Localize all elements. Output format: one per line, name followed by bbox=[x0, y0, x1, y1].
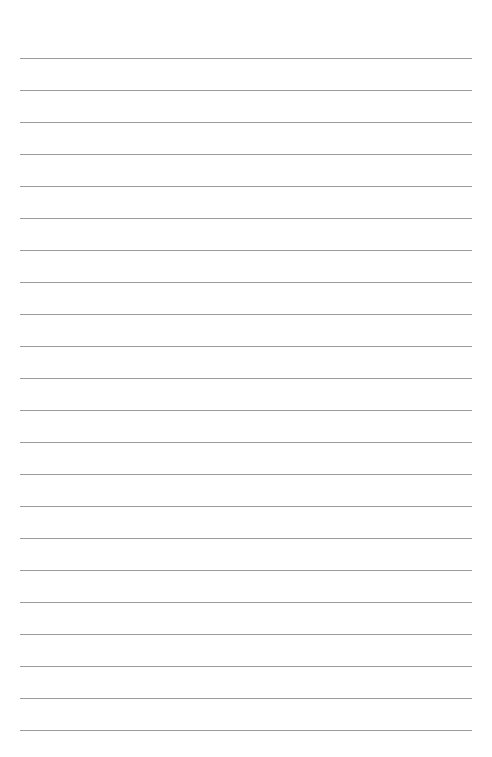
ruled-line bbox=[20, 410, 472, 411]
ruled-line bbox=[20, 90, 472, 91]
ruled-line bbox=[20, 250, 472, 251]
ruled-line bbox=[20, 186, 472, 187]
ruled-line bbox=[20, 346, 472, 347]
ruled-line bbox=[20, 538, 472, 539]
ruled-line bbox=[20, 122, 472, 123]
ruled-line bbox=[20, 58, 472, 59]
ruled-line bbox=[20, 218, 472, 219]
ruled-line bbox=[20, 378, 472, 379]
ruled-line bbox=[20, 474, 472, 475]
ruled-line bbox=[20, 634, 472, 635]
ruled-line bbox=[20, 314, 472, 315]
ruled-line bbox=[20, 442, 472, 443]
ruled-line bbox=[20, 282, 472, 283]
ruled-line bbox=[20, 730, 472, 731]
ruled-line bbox=[20, 154, 472, 155]
ruled-line bbox=[20, 666, 472, 667]
ruled-line bbox=[20, 506, 472, 507]
ruled-line bbox=[20, 698, 472, 699]
ruled-line bbox=[20, 602, 472, 603]
ruled-line bbox=[20, 570, 472, 571]
